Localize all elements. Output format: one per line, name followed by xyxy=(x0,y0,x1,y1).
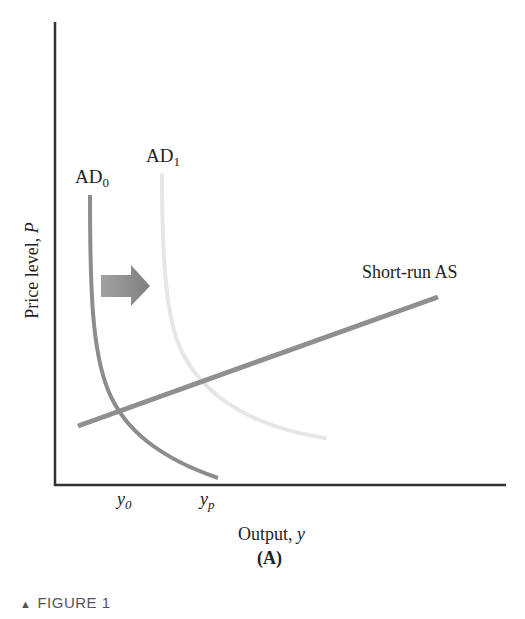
figure-caption-text: FIGURE 1 xyxy=(37,594,110,611)
panel-label: (A) xyxy=(257,548,282,569)
short-run-as-line xyxy=(78,297,438,426)
ad0-curve xyxy=(90,195,218,478)
y-axis-label: Price level, P xyxy=(22,191,43,351)
x-tick-yp: yp xyxy=(200,489,215,513)
ad1-curve xyxy=(162,175,325,438)
ad1-label: AD1 xyxy=(146,145,180,170)
triangle-marker-icon: ▲ xyxy=(20,598,31,610)
ad-as-figure: Price level, P AD0 AD1 Short-run AS y0 y… xyxy=(0,0,525,619)
x-axis-label: Output, y xyxy=(238,524,305,545)
x-tick-y0: y0 xyxy=(117,489,132,513)
ad0-label: AD0 xyxy=(75,166,109,191)
shift-right-arrow-icon xyxy=(101,265,150,306)
short-run-as-label: Short-run AS xyxy=(362,262,458,283)
figure-caption: ▲FIGURE 1 xyxy=(20,594,111,611)
